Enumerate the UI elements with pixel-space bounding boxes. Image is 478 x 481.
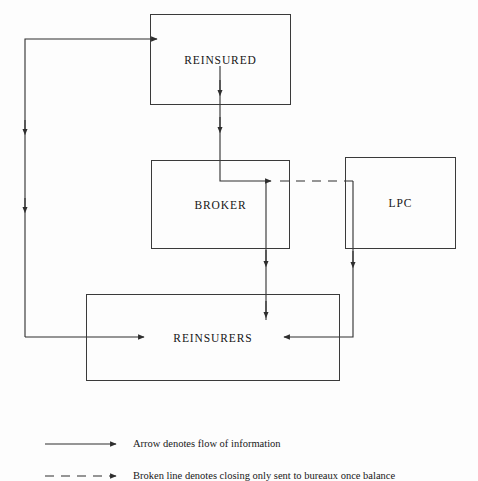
legend-arrow-text: Arrow denotes flow of information: [133, 438, 281, 449]
legend-item-arrow: Arrow denotes flow of information: [45, 438, 281, 449]
node-reinsured[interactable]: REINSURED: [150, 14, 291, 105]
legend-broken-line-text: Broken line denotes closing only sent to…: [133, 470, 395, 481]
node-lpc[interactable]: LPC: [345, 157, 456, 249]
node-reinsurers-label: REINSURERS: [173, 332, 252, 344]
node-broker-label: BROKER: [194, 199, 246, 211]
node-reinsured-label: REINSURED: [184, 54, 257, 66]
edge-reinsurers-to-reinsured: [25, 39, 157, 337]
node-lpc-label: LPC: [389, 197, 413, 209]
legend-item-broken-line: Broken line denotes closing only sent to…: [45, 470, 395, 481]
node-reinsurers[interactable]: REINSURERS: [86, 294, 340, 381]
flow-diagram: REINSURED BROKER LPC REINSURERS Arrow de…: [0, 0, 478, 481]
node-broker[interactable]: BROKER: [151, 160, 290, 249]
